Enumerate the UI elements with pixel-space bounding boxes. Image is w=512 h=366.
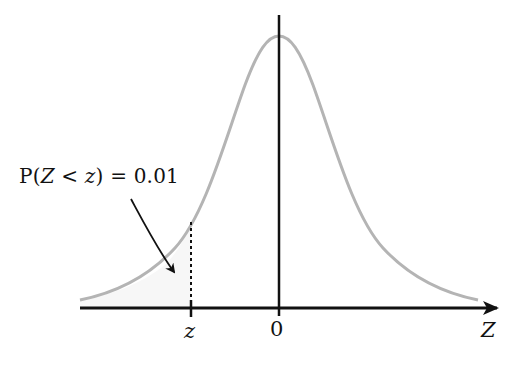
tick-label-z: z	[184, 319, 195, 343]
annotation-prefix: P(	[19, 164, 41, 188]
normal-distribution-diagram: P(Z < z) = 0.01 z 0 Z	[0, 0, 512, 366]
probability-annotation: P(Z < z) = 0.01	[19, 164, 179, 188]
x-axis-label: Z	[481, 318, 496, 342]
annotation-bound: z	[85, 164, 96, 188]
annotation-suffix: ) = 0.01	[96, 164, 179, 188]
annotation-operator: <	[55, 164, 85, 188]
annotation-arrow	[131, 199, 174, 272]
annotation-variable: Z	[41, 164, 55, 188]
tick-label-zero: 0	[270, 317, 283, 341]
